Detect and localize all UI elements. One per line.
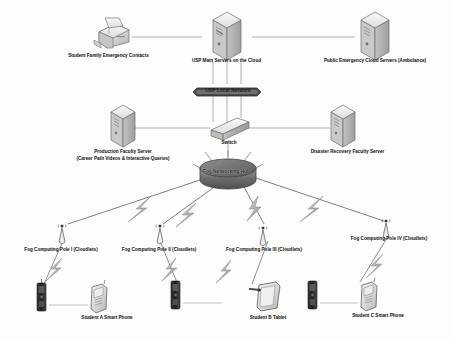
antenna-tower-icon-3 (259, 227, 267, 247)
hub-cylinder-icon (200, 159, 256, 189)
smartphone-icon-a (91, 280, 107, 313)
bolt-pole2 (176, 203, 196, 227)
node-public-emergency-cloud-servers[interactable]: Public Emergency Cloud Servers (Ambulanc… (300, 57, 450, 65)
node-student-a-smart-phone[interactable]: Student A Smart Phone (64, 314, 150, 322)
label-production-faculty-server-detail: (Career Path Videos & Interactive Querie… (76, 156, 169, 163)
label-student-c-smart-phone: Student C Smart Phone (352, 313, 404, 320)
switch-icon (211, 118, 249, 140)
label-switch: Switch (222, 140, 237, 147)
wireless-bolts-lower (46, 254, 383, 283)
mobile-handset-dark-b (171, 281, 180, 309)
node-fog-computing-pole-2[interactable]: Fog Computing Pole II (Cloudlets) (104, 246, 214, 254)
antenna-tower-icon-2 (156, 225, 164, 245)
node-student-c-smart-phone[interactable]: Student C Smart Phone (333, 312, 423, 320)
link-hub-pole1 (68, 178, 206, 224)
label-disaster-recovery-faculty-server: Disaster Recovery Faculty Server (311, 149, 385, 156)
wireless-bolts-upper (128, 196, 323, 227)
node-student-family-emergency-contacts[interactable]: Student Family Emergency Contacts (36, 52, 181, 60)
mobile-handset-dark-c (308, 281, 317, 309)
label-fog-computing-pole-4: Fog Computing Pole IV (Cloudlets) (351, 236, 427, 243)
server-tower-icon-main (213, 12, 241, 60)
fax-printer-icon (94, 18, 129, 48)
label-student-a-smart-phone: Student A Smart Phone (81, 315, 132, 322)
node-usp-local-network[interactable]: USP Local Network (193, 84, 263, 100)
node-switch[interactable]: Switch (205, 139, 253, 147)
link-pole4-deviceC (360, 238, 387, 282)
bolt-pole3 (247, 196, 261, 221)
node-student-b-tablet[interactable]: Student B Tablet (230, 314, 306, 322)
server-tower-icon-disaster (331, 105, 355, 147)
node-fog-computing-pole-1[interactable]: Fog Computing Pole I (Cloudlets) (6, 246, 116, 254)
label-fog-computing-pole-1: Fog Computing Pole I (Cloudlets) (24, 247, 97, 254)
bolt-deviceC (366, 254, 383, 278)
label-production-faculty-server: Production Faculty Server (94, 149, 152, 156)
node-production-faculty-server[interactable]: Production Faculty Server (Career Path V… (58, 148, 188, 163)
label-student-family-emergency-contacts: Student Family Emergency Contacts (68, 53, 149, 60)
node-fog-computing-pole-4[interactable]: Fog Computing Pole IV (Cloudlets) (331, 235, 447, 243)
tablet-icon-b (250, 282, 280, 311)
label-fog-networking-hub: Fog Networking Hub (203, 169, 250, 174)
label-usp-local-network: USP Local Network (205, 88, 251, 93)
server-tower-icon-public (361, 12, 389, 60)
label-usp-main-servers: USP Main Servers on the Cloud (192, 58, 261, 65)
node-disaster-recovery-faculty-server[interactable]: Disaster Recovery Faculty Server (285, 148, 410, 156)
bolt-pole4 (300, 196, 323, 222)
label-public-emergency-cloud-servers: Public Emergency Cloud Servers (Ambulanc… (324, 58, 426, 65)
label-fog-computing-pole-3: Fog Computing Pole III (Cloudlets) (226, 247, 302, 254)
smartphone-icon-c (361, 278, 377, 311)
node-usp-main-servers[interactable]: USP Main Servers on the Cloud (164, 57, 289, 65)
antenna-tower-icon-1 (58, 225, 66, 245)
label-student-b-tablet: Student B Tablet (250, 315, 286, 322)
mobile-handset-dark-a (37, 279, 46, 311)
link-hub-pole2 (163, 185, 217, 224)
label-fog-computing-pole-2: Fog Computing Pole II (Cloudlets) (122, 247, 197, 254)
link-hub-pole4 (253, 177, 384, 221)
bolt-deviceB2 (216, 260, 231, 283)
node-fog-computing-pole-3[interactable]: Fog Computing Pole III (Cloudlets) (208, 246, 320, 254)
server-tower-icon-production (111, 105, 135, 147)
